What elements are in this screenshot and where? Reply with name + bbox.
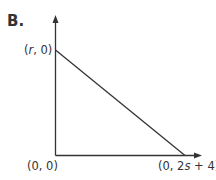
line-graph bbox=[0, 0, 216, 180]
x-intercept-label: (0, 2s + 4) bbox=[158, 159, 216, 173]
origin-label: (0, 0) bbox=[27, 159, 58, 173]
y-intercept-label: (r, 0) bbox=[24, 43, 52, 57]
x-axis-arrow-icon bbox=[194, 153, 202, 159]
y-axis-arrow-icon bbox=[53, 15, 59, 23]
graph-line bbox=[56, 50, 186, 156]
